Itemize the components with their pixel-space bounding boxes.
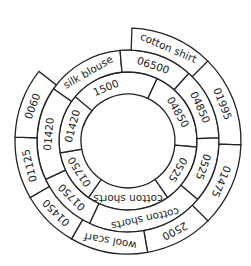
ring-inner: 1500048500525cotton shorts0175001420 xyxy=(59,72,197,210)
spiral-ring-diagram: 1500048500525cotton shorts0175001420silk… xyxy=(0,0,251,266)
segment-label: cotton shorts xyxy=(93,193,162,205)
